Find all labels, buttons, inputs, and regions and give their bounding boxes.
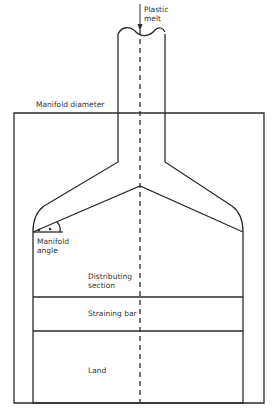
angle-dot-2 [49, 228, 52, 231]
label-manifold-angle: Manifold angle [37, 237, 69, 255]
angle-dot-1 [38, 229, 41, 232]
label-land: Land [88, 366, 106, 375]
angle-arc [57, 222, 60, 232]
label-straining-bar: Straining bar [88, 309, 137, 318]
label-distributing: Distributing [88, 272, 132, 281]
label-plastic: Plastic [144, 5, 168, 14]
label-section: section [88, 281, 132, 290]
label-melt: melt [144, 14, 168, 23]
label-angle: angle [37, 246, 69, 255]
label-manifold: Manifold [37, 237, 69, 246]
label-plastic-melt: Plastic melt [144, 5, 168, 23]
label-manifold-diameter: Manifold diameter [36, 100, 104, 109]
die-diagram [0, 0, 279, 418]
label-distributing-section: Distributing section [88, 272, 132, 290]
melt-arrow-head [138, 24, 143, 31]
outer-box [14, 113, 264, 403]
pipe-break-line [118, 28, 165, 36]
